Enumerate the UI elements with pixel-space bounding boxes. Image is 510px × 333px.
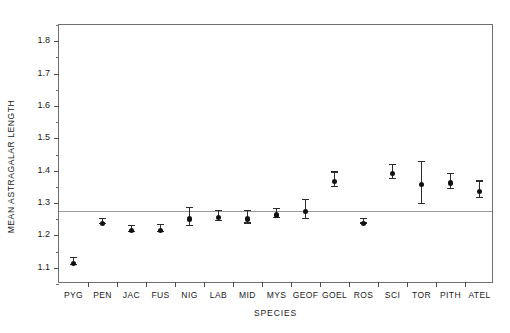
x-tick — [204, 282, 205, 287]
error-bar-cap-upper — [99, 218, 106, 219]
x-tick — [465, 282, 466, 287]
mean-marker — [419, 182, 424, 187]
y-tick-minor — [56, 284, 59, 285]
mean-marker — [245, 216, 250, 221]
x-tick — [262, 282, 263, 287]
y-tick: 1.1 — [54, 268, 59, 269]
y-tick-minor — [56, 219, 59, 220]
error-bar-cap-lower — [447, 188, 454, 189]
x-axis-title: SPECIES — [58, 308, 493, 318]
x-tick — [146, 282, 147, 287]
y-tick-label: 1.2 — [37, 229, 50, 239]
error-bar-cap-lower — [215, 220, 222, 221]
y-tick: 1.7 — [54, 74, 59, 75]
x-tick — [117, 282, 118, 287]
x-tick — [349, 282, 350, 287]
x-tick — [291, 282, 292, 287]
y-tick-minor — [56, 252, 59, 253]
error-bar-cap-lower — [244, 222, 251, 223]
error-bar-cap-lower — [302, 218, 309, 219]
error-bar-cap-upper — [360, 218, 367, 219]
x-tick — [175, 282, 176, 287]
error-bar-cap-upper — [215, 210, 222, 211]
mean-marker — [71, 261, 76, 266]
error-bar-cap-lower — [476, 197, 483, 198]
x-tick-label-mys: MYS — [267, 290, 287, 300]
error-bar-cap-lower — [389, 178, 396, 179]
error-bar-cap-upper — [331, 171, 338, 172]
y-tick-minor — [56, 90, 59, 91]
error-bar-cap-lower — [418, 203, 425, 204]
mean-marker — [448, 180, 453, 185]
error-bar-cap-upper — [128, 225, 135, 226]
x-tick-label-ros: ROS — [354, 290, 374, 300]
y-tick-label: 1.4 — [37, 165, 50, 175]
y-tick-label: 1.8 — [37, 35, 50, 45]
y-tick-minor — [56, 155, 59, 156]
mean-marker — [274, 212, 279, 217]
x-tick-label-atel: ATEL — [468, 290, 490, 300]
x-tick-label-tor: TOR — [412, 290, 431, 300]
error-bar-cap-upper — [389, 164, 396, 165]
y-tick: 1.8 — [54, 41, 59, 42]
x-tick — [407, 282, 408, 287]
error-bar-cap-upper — [157, 224, 164, 225]
error-bar-cap-upper — [447, 173, 454, 174]
x-tick — [436, 282, 437, 287]
y-tick-label: 1.5 — [37, 132, 50, 142]
error-bar-cap-lower — [331, 186, 338, 187]
x-tick-label-goel: GOEL — [322, 290, 347, 300]
y-tick: 1.3 — [54, 203, 59, 204]
x-tick-label-pen: PEN — [93, 290, 112, 300]
x-tick-label-sci: SCI — [385, 290, 400, 300]
error-bar-cap-upper — [476, 180, 483, 181]
mean-marker — [129, 228, 134, 233]
x-tick-label-mid: MID — [239, 290, 256, 300]
mean-marker — [303, 209, 308, 214]
mean-marker — [390, 171, 395, 176]
x-tick — [88, 282, 89, 287]
y-tick-minor — [56, 25, 59, 26]
error-bar-cap-upper — [186, 207, 193, 208]
error-bar-cap-upper — [70, 257, 77, 258]
x-tick-label-geof: GEOF — [293, 290, 319, 300]
mean-marker — [332, 179, 337, 184]
y-tick-label: 1.3 — [37, 197, 50, 207]
y-tick-label: 1.7 — [37, 68, 50, 78]
error-bar-cap-upper — [418, 161, 425, 162]
x-tick-label-fus: FUS — [151, 290, 169, 300]
x-tick-label-pith: PITH — [440, 290, 461, 300]
chart-figure: MEAN ASTRAGALAR LENGTH 1.11.21.31.41.51.… — [0, 0, 510, 333]
y-tick-minor — [56, 57, 59, 58]
mean-marker — [100, 221, 105, 226]
y-tick: 1.4 — [54, 171, 59, 172]
y-axis-title: MEAN ASTRAGALAR LENGTH — [0, 0, 22, 333]
x-tick-label-jac: JAC — [123, 290, 140, 300]
mean-marker — [477, 189, 482, 194]
plot-area: 1.11.21.31.41.51.61.71.8 PYGPENJACFUSNIG… — [58, 24, 493, 283]
mean-marker — [158, 228, 163, 233]
x-tick — [378, 282, 379, 287]
y-tick-label: 1.6 — [37, 100, 50, 110]
x-tick — [320, 282, 321, 287]
error-bar-cap-upper — [302, 199, 309, 200]
y-tick-label: 1.1 — [37, 262, 50, 272]
x-tick-label-nig: NIG — [181, 290, 197, 300]
mean-marker — [187, 216, 192, 221]
x-tick — [233, 282, 234, 287]
mean-marker — [361, 221, 366, 226]
x-tick-label-lab: LAB — [210, 290, 227, 300]
x-tick-label-pyg: PYG — [64, 290, 83, 300]
y-tick-minor — [56, 187, 59, 188]
error-bar-cap-upper — [273, 208, 280, 209]
error-bar-cap-lower — [186, 225, 193, 226]
y-tick: 1.5 — [54, 138, 59, 139]
y-tick: 1.6 — [54, 106, 59, 107]
y-tick-minor — [56, 122, 59, 123]
y-tick: 1.2 — [54, 235, 59, 236]
error-bar-cap-upper — [244, 210, 251, 211]
